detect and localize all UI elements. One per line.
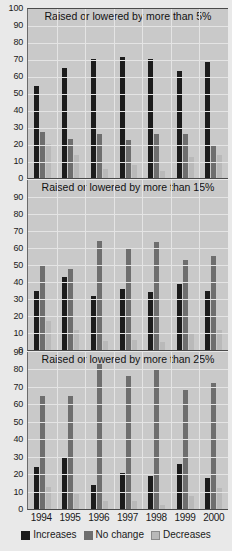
- chart-figure: 0102030405060708090100 Raised or lowered…: [0, 0, 232, 551]
- bar: [132, 340, 137, 350]
- gridline: [28, 299, 228, 300]
- bar: [103, 169, 108, 178]
- gridline-vertical: [171, 9, 172, 178]
- y-tick-label: 20: [13, 470, 23, 479]
- y-axis-panel-1: 0102030405060708090: [0, 180, 25, 351]
- x-tick-label: 1995: [56, 511, 85, 525]
- bar: [103, 501, 108, 509]
- bar: [132, 165, 137, 178]
- bar-group: [85, 352, 114, 509]
- gridline-vertical: [57, 180, 58, 350]
- bar: [217, 155, 222, 178]
- gridline: [28, 265, 228, 266]
- bar: [62, 277, 67, 350]
- y-tick-label: 10: [13, 487, 23, 496]
- bar: [189, 157, 194, 178]
- gridline-vertical: [171, 352, 172, 509]
- gridline: [28, 145, 228, 146]
- y-tick-label: 40: [13, 435, 23, 444]
- legend-item: Decreases: [151, 530, 211, 540]
- y-tick-label: 70: [13, 382, 23, 391]
- gridline: [28, 474, 228, 475]
- gridline: [28, 282, 228, 283]
- gridline: [28, 439, 228, 440]
- y-tick-label: 30: [13, 452, 23, 461]
- gridline: [28, 248, 228, 249]
- bar: [205, 478, 210, 509]
- bar: [205, 62, 210, 178]
- y-axis-panel-2: 0102030405060708090: [0, 352, 25, 510]
- bar: [148, 292, 153, 350]
- gridline-vertical: [199, 352, 200, 509]
- gridline-vertical: [199, 180, 200, 350]
- gridline-vertical: [142, 180, 143, 350]
- y-tick-label: 80: [13, 38, 23, 47]
- bar-group: [114, 352, 143, 509]
- bar: [189, 496, 194, 509]
- gridline: [28, 333, 228, 334]
- bar: [183, 260, 188, 350]
- gridline: [28, 387, 228, 388]
- bar: [34, 86, 39, 178]
- bar: [74, 155, 79, 178]
- y-tick-label: 60: [13, 244, 23, 253]
- y-axis-panel-0: 0102030405060708090100: [0, 8, 25, 179]
- gridline: [28, 422, 228, 423]
- gridline: [28, 231, 228, 232]
- gridline: [28, 43, 228, 44]
- bar-group: [142, 352, 171, 509]
- bar: [120, 57, 125, 178]
- x-tick-label: 1997: [113, 511, 142, 525]
- bar: [211, 256, 216, 350]
- bar: [160, 342, 165, 350]
- y-tick-label: 80: [13, 210, 23, 219]
- legend-label: Increases: [33, 530, 76, 540]
- y-tick-label: 100: [9, 4, 23, 13]
- y-tick-label: 90: [13, 193, 23, 202]
- gridline: [28, 77, 228, 78]
- gridline-vertical: [142, 352, 143, 509]
- gridline: [28, 197, 228, 198]
- chart-panel-5pct: 0102030405060708090100 Raised or lowered…: [0, 8, 232, 179]
- gridline: [28, 128, 228, 129]
- chart-legend: IncreasesNo changeDecreases: [0, 527, 232, 543]
- y-tick-label: 20: [13, 140, 23, 149]
- y-tick-label: 40: [13, 278, 23, 287]
- gridline: [28, 26, 228, 27]
- bar: [120, 289, 125, 350]
- x-tick-label: 1999: [171, 511, 200, 525]
- bar: [154, 134, 159, 178]
- bar: [183, 134, 188, 178]
- bar: [40, 265, 45, 350]
- x-tick-label: 1994: [27, 511, 56, 525]
- bar: [132, 501, 137, 509]
- y-tick-label: 10: [13, 329, 23, 338]
- y-tick-label: 10: [13, 157, 23, 166]
- bar-group: [171, 352, 200, 509]
- gridline-vertical: [85, 9, 86, 178]
- plot-area-panel-1: Raised or lowered by more than 15%: [27, 180, 228, 351]
- bar-group: [28, 352, 57, 509]
- bar: [91, 485, 96, 509]
- y-tick-label: 30: [13, 123, 23, 132]
- x-tick-label: 1998: [142, 511, 171, 525]
- y-tick-label: 60: [13, 72, 23, 81]
- gridline-vertical: [171, 180, 172, 350]
- x-axis-labels: 1994199519961997199819992000: [27, 511, 228, 525]
- y-tick-label: 70: [13, 55, 23, 64]
- gridline: [28, 94, 228, 95]
- bar: [74, 494, 79, 509]
- legend-swatch-icon: [21, 531, 30, 540]
- y-tick-label: 50: [13, 417, 23, 426]
- gridline-vertical: [85, 180, 86, 350]
- bar: [126, 376, 131, 509]
- bar-group: [57, 352, 86, 509]
- chart-panel-25pct: 0102030405060708090 Raised or lowered by…: [0, 352, 232, 510]
- bar: [160, 505, 165, 509]
- bar: [103, 341, 108, 350]
- y-tick-label: 30: [13, 295, 23, 304]
- gridline: [28, 369, 228, 370]
- bar-group: [199, 352, 228, 509]
- bar: [46, 487, 51, 509]
- y-tick-label: 20: [13, 312, 23, 321]
